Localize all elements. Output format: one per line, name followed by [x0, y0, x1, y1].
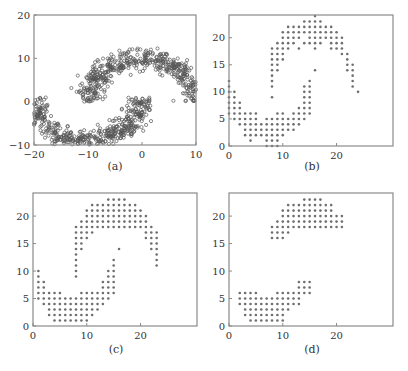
data-point [265, 314, 268, 317]
panel-d: 0102005101520 (d) [0, 0, 408, 371]
data-point [330, 220, 333, 223]
data-point [244, 292, 247, 295]
data-point [249, 308, 252, 311]
data-point [249, 303, 252, 306]
data-point [281, 314, 284, 317]
data-point [308, 209, 311, 212]
data-point [244, 297, 247, 300]
data-point [308, 226, 311, 229]
data-point [303, 292, 306, 295]
data-point [260, 303, 263, 306]
data-point [287, 209, 290, 212]
y-tick-label: 20 [212, 211, 225, 222]
data-point [238, 297, 241, 300]
data-point [265, 319, 268, 322]
data-point [324, 215, 327, 218]
data-point [281, 292, 284, 295]
data-point [308, 281, 311, 284]
axes-frame [229, 193, 393, 326]
data-point [314, 198, 317, 201]
data-point [276, 292, 279, 295]
data-point [265, 308, 268, 311]
data-point [249, 314, 252, 317]
x-tick-label: 10 [276, 330, 289, 341]
data-point [276, 226, 279, 229]
data-point [255, 319, 258, 322]
data-point [341, 220, 344, 223]
data-point [249, 297, 252, 300]
data-point [271, 297, 274, 300]
data-point [298, 286, 301, 289]
data-point [314, 220, 317, 223]
y-tick-label: 10 [212, 266, 225, 277]
data-point [271, 314, 274, 317]
data-point [260, 319, 263, 322]
data-point [271, 308, 274, 311]
data-point [287, 292, 290, 295]
data-point [271, 303, 274, 306]
data-point [319, 209, 322, 212]
data-point [324, 220, 327, 223]
data-point [249, 292, 252, 295]
data-point [324, 209, 327, 212]
data-point [292, 220, 295, 223]
data-point [276, 237, 279, 240]
data-point [303, 215, 306, 218]
data-point [287, 297, 290, 300]
data-point [276, 308, 279, 311]
data-point [292, 204, 295, 207]
data-point [238, 292, 241, 295]
data-point [298, 226, 301, 229]
data-point [238, 303, 241, 306]
data-point [303, 286, 306, 289]
data-point [276, 314, 279, 317]
data-point [298, 215, 301, 218]
data-point [324, 204, 327, 207]
data-point [287, 204, 290, 207]
data-point [319, 220, 322, 223]
data-point [276, 231, 279, 234]
data-point [314, 204, 317, 207]
y-tick-label: 5 [219, 293, 225, 304]
data-point [298, 204, 301, 207]
data-point [298, 220, 301, 223]
data-point [281, 319, 284, 322]
data-point [335, 226, 338, 229]
data-point [303, 209, 306, 212]
data-point [292, 292, 295, 295]
data-point [303, 281, 306, 284]
data-point [287, 231, 290, 234]
data-point [308, 198, 311, 201]
data-point [244, 308, 247, 311]
data-point [308, 286, 311, 289]
data-point [330, 209, 333, 212]
data-point [287, 226, 290, 229]
data-point [298, 281, 301, 284]
data-point [292, 297, 295, 300]
data-point [335, 215, 338, 218]
data-point [287, 215, 290, 218]
data-point [298, 209, 301, 212]
data-point [292, 226, 295, 229]
data-point [314, 226, 317, 229]
data-point [314, 209, 317, 212]
data-point [292, 209, 295, 212]
data-point [281, 220, 284, 223]
data-point [244, 314, 247, 317]
data-point [330, 204, 333, 207]
data-point [303, 198, 306, 201]
data-point [281, 303, 284, 306]
data-point [287, 303, 290, 306]
data-point [276, 319, 279, 322]
data-point [319, 215, 322, 218]
data-point [255, 308, 258, 311]
data-point [287, 220, 290, 223]
data-point [308, 292, 311, 295]
data-point [244, 303, 247, 306]
data-point [287, 308, 290, 311]
data-point [324, 226, 327, 229]
data-point [341, 226, 344, 229]
data-point [319, 198, 322, 201]
data-point [265, 303, 268, 306]
data-point [292, 303, 295, 306]
